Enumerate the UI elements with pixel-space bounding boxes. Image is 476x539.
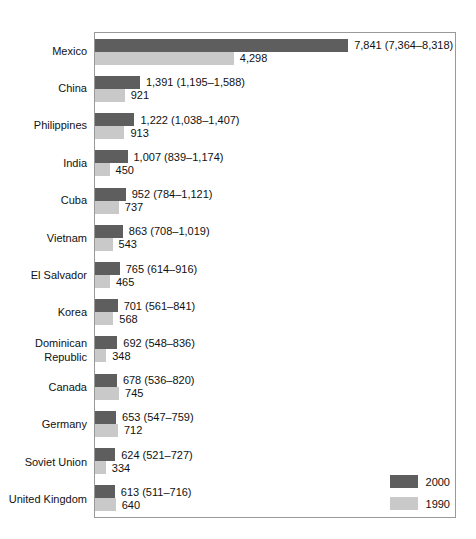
bar-1990 xyxy=(95,424,118,437)
value-label-1990: 334 xyxy=(112,462,130,474)
legend: 2000 1990 xyxy=(390,475,450,510)
value-label-1990: 450 xyxy=(116,164,134,176)
value-label-2000: 1,222 (1,038–1,407) xyxy=(140,114,239,126)
value-label-2000: 765 (614–916) xyxy=(126,263,198,275)
bar-line-2000: 1,222 (1,038–1,407) xyxy=(95,113,455,126)
bar-group: 701 (561–841)568 xyxy=(95,294,455,331)
category-label: Korea xyxy=(0,294,94,331)
bar-line-2000: 678 (536–820) xyxy=(95,374,455,387)
bar-2000 xyxy=(95,374,117,387)
bar-1990 xyxy=(95,387,119,400)
value-label-2000: 653 (547–759) xyxy=(122,411,194,423)
bar-line-1990: 745 xyxy=(95,387,455,400)
legend-item-2000: 2000 xyxy=(390,475,450,488)
bar-line-2000: 692 (548–836) xyxy=(95,336,455,349)
bar-line-2000: 1,007 (839–1,174) xyxy=(95,150,455,163)
chart-area: MexicoChinaPhilippinesIndiaCubaVietnamEl… xyxy=(0,32,456,518)
bar-line-2000: 701 (561–841) xyxy=(95,299,455,312)
bar-line-2000: 653 (547–759) xyxy=(95,411,455,424)
legend-swatch-2000 xyxy=(390,475,418,488)
value-label-1990: 543 xyxy=(119,238,137,250)
legend-item-1990: 1990 xyxy=(390,497,450,510)
bar-line-1990: 913 xyxy=(95,126,455,139)
category-label: Cuba xyxy=(0,182,94,219)
bar-1990 xyxy=(95,461,106,474)
value-label-2000: 1,007 (839–1,174) xyxy=(134,151,224,163)
bar-1990 xyxy=(95,349,106,362)
value-label-1990: 4,298 xyxy=(240,52,268,64)
value-label-2000: 701 (561–841) xyxy=(124,300,196,312)
bar-group: 952 (784–1,121)737 xyxy=(95,182,455,219)
value-label-2000: 624 (521–727) xyxy=(121,449,193,461)
bar-line-1990: 334 xyxy=(95,461,455,474)
bar-line-2000: 7,841 (7,364–8,318) xyxy=(95,39,455,52)
value-label-2000: 692 (548–836) xyxy=(123,337,195,349)
value-label-2000: 952 (784–1,121) xyxy=(132,188,213,200)
category-label: Philippines xyxy=(0,107,94,144)
category-label: El Salvador xyxy=(0,256,94,293)
bar-1990 xyxy=(95,238,113,251)
bar-group: 692 (548–836)348 xyxy=(95,331,455,368)
value-label-2000: 7,841 (7,364–8,318) xyxy=(354,39,453,51)
legend-label-1990: 1990 xyxy=(426,498,450,510)
bar-2000 xyxy=(95,485,115,498)
legend-swatch-1990 xyxy=(390,497,418,510)
bar-1990 xyxy=(95,312,113,325)
bar-2000 xyxy=(95,150,128,163)
bar-group: 678 (536–820)745 xyxy=(95,368,455,405)
bar-line-1990: 465 xyxy=(95,275,455,288)
category-label: Dominican Republic xyxy=(0,331,94,368)
bar-1990 xyxy=(95,52,234,65)
bar-line-1990: 450 xyxy=(95,163,455,176)
bar-group: 1,007 (839–1,174)450 xyxy=(95,145,455,182)
bar-1990 xyxy=(95,275,110,288)
value-label-1990: 913 xyxy=(130,127,148,139)
bar-group: 1,391 (1,195–1,588)921 xyxy=(95,70,455,107)
value-label-1990: 640 xyxy=(122,499,140,511)
bar-line-2000: 624 (521–727) xyxy=(95,448,455,461)
bar-line-1990: 543 xyxy=(95,238,455,251)
value-label-1990: 712 xyxy=(124,424,142,436)
value-label-2000: 613 (511–716) xyxy=(121,486,192,498)
bar-group: 1,222 (1,038–1,407)913 xyxy=(95,107,455,144)
bar-line-1990: 737 xyxy=(95,201,455,214)
value-label-1990: 737 xyxy=(125,201,143,213)
bar-chart-figure: MexicoChinaPhilippinesIndiaCubaVietnamEl… xyxy=(0,0,476,539)
value-label-2000: 1,391 (1,195–1,588) xyxy=(146,76,245,88)
bar-group: 765 (614–916)465 xyxy=(95,256,455,293)
bar-line-1990: 4,298 xyxy=(95,52,455,65)
category-label: China xyxy=(0,69,94,106)
category-label: Canada xyxy=(0,369,94,406)
bar-1990 xyxy=(95,201,119,214)
bar-group: 863 (708–1,019)543 xyxy=(95,219,455,256)
category-label: Germany xyxy=(0,406,94,443)
bar-1990 xyxy=(95,89,125,102)
bar-2000 xyxy=(95,336,117,349)
value-label-2000: 678 (536–820) xyxy=(123,374,195,386)
plot-area: 7,841 (7,364–8,318)4,2981,391 (1,195–1,5… xyxy=(94,32,456,518)
bar-2000 xyxy=(95,39,348,52)
category-label: Vietnam xyxy=(0,219,94,256)
bar-2000 xyxy=(95,262,120,275)
bar-2000 xyxy=(95,188,126,201)
value-label-1990: 921 xyxy=(131,89,149,101)
value-label-2000: 863 (708–1,019) xyxy=(129,225,210,237)
bar-line-1990: 348 xyxy=(95,349,455,362)
value-label-1990: 348 xyxy=(112,350,130,362)
bar-1990 xyxy=(95,126,124,139)
category-label: Mexico xyxy=(0,32,94,69)
bar-line-2000: 1,391 (1,195–1,588) xyxy=(95,76,455,89)
value-label-1990: 465 xyxy=(116,276,134,288)
bar-line-2000: 765 (614–916) xyxy=(95,262,455,275)
bar-line-2000: 952 (784–1,121) xyxy=(95,188,455,201)
category-label: United Kingdom xyxy=(0,481,94,518)
category-label: India xyxy=(0,144,94,181)
value-label-1990: 568 xyxy=(119,313,137,325)
bar-2000 xyxy=(95,76,140,89)
bar-line-1990: 921 xyxy=(95,89,455,102)
bar-1990 xyxy=(95,498,116,511)
bar-group: 7,841 (7,364–8,318)4,298 xyxy=(95,33,455,70)
legend-label-2000: 2000 xyxy=(426,476,450,488)
bar-line-1990: 568 xyxy=(95,312,455,325)
bar-line-1990: 712 xyxy=(95,424,455,437)
